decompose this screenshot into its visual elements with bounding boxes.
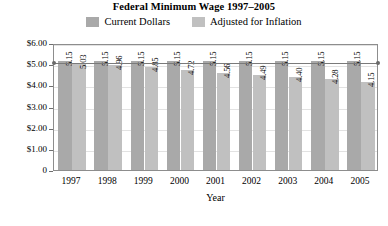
bar bbox=[347, 61, 361, 170]
y-axis-tick-mark bbox=[49, 171, 53, 172]
y-axis-tick-label: $6.00 bbox=[27, 38, 47, 48]
bar bbox=[145, 67, 159, 170]
bar-value-label: 4.15 bbox=[366, 73, 376, 87]
bar bbox=[203, 61, 217, 170]
bar bbox=[94, 61, 108, 170]
reference-line bbox=[54, 63, 377, 65]
bar bbox=[361, 82, 375, 170]
bar-value-label: 4.56 bbox=[222, 64, 232, 78]
legend-swatch-current-dollars bbox=[86, 17, 99, 27]
bar-value-label: 5.03 bbox=[78, 54, 88, 68]
x-axis-tick-label: 1998 bbox=[87, 176, 127, 186]
y-axis-tick-label: $4.00 bbox=[27, 80, 47, 90]
bar bbox=[58, 61, 72, 170]
chart-title: Federal Minimum Wage 1997–2005 bbox=[0, 1, 388, 12]
x-axis-tick-label: 1997 bbox=[51, 176, 91, 186]
y-axis-tick-label: $2.00 bbox=[27, 123, 47, 133]
plot-area: 5.155.035.154.965.154.855.154.725.154.56… bbox=[53, 44, 378, 171]
bar bbox=[181, 70, 195, 170]
x-axis-tick-label: 2002 bbox=[232, 176, 272, 186]
bar-value-label: 4.40 bbox=[294, 67, 304, 81]
chart-legend: Current Dollars Adjusted for Inflation bbox=[0, 16, 388, 27]
y-axis-tick-label: $1.00 bbox=[27, 144, 47, 154]
x-axis-tick-label: 2005 bbox=[340, 176, 380, 186]
x-axis-title: Year bbox=[53, 192, 378, 203]
bar bbox=[108, 65, 122, 170]
legend-item-adjusted-for-inflation: Adjusted for Inflation bbox=[192, 16, 302, 27]
bar bbox=[311, 61, 325, 170]
bar bbox=[167, 61, 181, 170]
bar bbox=[275, 61, 289, 170]
reference-line-endpoint-right bbox=[376, 61, 380, 65]
y-axis-tick-label: $3.00 bbox=[27, 102, 47, 112]
legend-swatch-adjusted-for-inflation bbox=[192, 17, 205, 27]
bar-value-label: 4.85 bbox=[150, 58, 160, 72]
legend-label-adjusted-for-inflation: Adjusted for Inflation bbox=[210, 16, 302, 27]
y-axis-tick-label: 0 bbox=[43, 165, 48, 175]
y-axis-tick-label: $5.00 bbox=[27, 59, 47, 69]
bar-value-label: 4.28 bbox=[330, 70, 340, 84]
bar-value-label: 4.49 bbox=[258, 65, 268, 79]
bar bbox=[289, 77, 303, 170]
x-axis-tick-label: 2001 bbox=[196, 176, 236, 186]
bar bbox=[72, 64, 86, 170]
chart-container: Federal Minimum Wage 1997–2005 Current D… bbox=[0, 0, 388, 226]
x-axis-tick-label: 2004 bbox=[304, 176, 344, 186]
x-axis-tick-label: 2000 bbox=[159, 176, 199, 186]
bar bbox=[325, 79, 339, 170]
legend-label-current-dollars: Current Dollars bbox=[104, 16, 170, 27]
bar bbox=[217, 73, 231, 170]
bar bbox=[253, 75, 267, 170]
bar bbox=[131, 61, 145, 170]
legend-item-current-dollars: Current Dollars bbox=[86, 16, 170, 27]
bar bbox=[239, 61, 253, 170]
x-axis-tick-label: 1999 bbox=[123, 176, 163, 186]
x-axis-tick-label: 2003 bbox=[268, 176, 308, 186]
